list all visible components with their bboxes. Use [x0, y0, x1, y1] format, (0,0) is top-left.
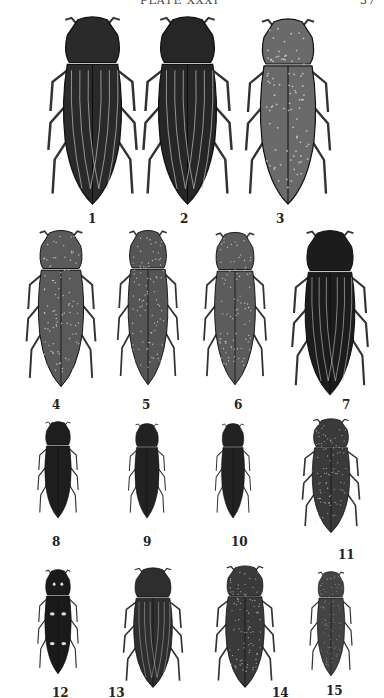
beetle-figure-4	[20, 228, 102, 390]
beetle-figure-6	[198, 230, 272, 388]
figure-number-5: 5	[142, 398, 150, 412]
figure-number-10: 10	[231, 535, 248, 549]
plate-title: PLATE XXXI	[140, 0, 219, 7]
figure-number-15: 15	[326, 684, 343, 698]
beetle-figure-15	[306, 570, 356, 678]
beetle-figure-11	[297, 417, 365, 535]
figure-number-3: 3	[276, 212, 284, 226]
beetle-figure-13	[118, 566, 188, 690]
beetle-figure-3	[238, 16, 338, 208]
beetle-figure-8	[34, 420, 82, 520]
figure-number-7: 7	[342, 398, 350, 412]
figure-number-8: 8	[52, 535, 60, 549]
beetle-figure-1	[40, 14, 145, 208]
figure-number-1: 1	[88, 212, 96, 226]
figure-number-2: 2	[180, 212, 188, 226]
figure-number-12: 12	[52, 686, 69, 698]
beetle-figure-10	[212, 422, 254, 520]
beetle-figure-9	[125, 422, 169, 520]
figure-number-14: 14	[272, 686, 289, 698]
figure-number-11: 11	[338, 548, 355, 562]
figure-number-9: 9	[143, 535, 151, 549]
figure-number-6: 6	[234, 398, 242, 412]
beetle-figure-14	[210, 564, 280, 690]
beetle-figure-2	[135, 14, 240, 208]
figure-number-4: 4	[52, 398, 60, 412]
beetle-figure-5	[112, 228, 184, 388]
beetle-figure-7	[285, 228, 375, 398]
beetle-figure-12	[34, 568, 82, 676]
figure-number-13: 13	[108, 686, 125, 698]
page-number: 37	[360, 0, 376, 7]
